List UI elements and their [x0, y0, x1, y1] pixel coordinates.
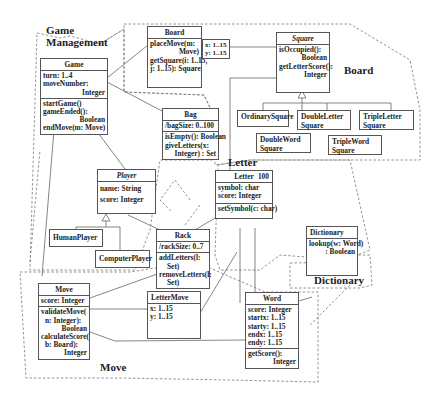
attributes: turn: 1..4 moveNumber: Integer [41, 71, 107, 99]
attribute: score: Integer [100, 194, 153, 205]
class-name: Dictionary [307, 227, 357, 239]
operations: isEmpty(): Boolean giveLetters(x: Intege… [163, 132, 218, 159]
operation-type: Integer [248, 358, 296, 366]
operations: getScore(): Integer [246, 349, 298, 367]
package-label-line: Management [46, 36, 108, 48]
class-letter[interactable]: Letter 100 symbol: char score: Integer s… [215, 170, 273, 219]
package-label-board: Board [344, 64, 373, 76]
class-name: Square [260, 145, 307, 154]
operations: validateMove( n: Integer): Boolean calcu… [39, 307, 89, 358]
class-name: Square [363, 122, 410, 131]
attributes: /bagSize: 0..100 [163, 121, 218, 132]
class-name: Game [41, 59, 107, 71]
class-human-player[interactable]: HumanPlayer [49, 229, 103, 247]
class-triple-letter-square[interactable]: TripleLetter Square [359, 110, 414, 130]
class-letter-move[interactable]: LetterMove x: 1..15 y: 1..15 [147, 291, 201, 339]
multiplicity: 100 [258, 173, 269, 181]
class-name: Square [332, 147, 378, 156]
class-triple-word-square[interactable]: TripleWord Square [328, 135, 382, 155]
operation: endMove(m: Move) [43, 124, 105, 132]
operations: setSymbol(c: char) [216, 204, 272, 214]
operation: setSymbol(c: char) [218, 205, 270, 213]
class-name: ComputerPlayer [99, 255, 146, 264]
class-square[interactable]: Square isOccupied(): Boolean getLetterSc… [276, 32, 330, 93]
attribute: endy: 1..15 [248, 339, 296, 347]
package-label-letter: Letter [228, 156, 257, 168]
class-name: Word [246, 293, 298, 305]
class-name: Bag [163, 109, 218, 121]
operations: lookup(w: Word) : Boolean [307, 239, 357, 257]
operations: isOccupied(): Boolean getLetterScore(): … [277, 45, 329, 80]
operation: j: 1..15): Square [150, 65, 199, 73]
class-name: Board [148, 27, 201, 39]
class-computer-player[interactable]: ComputerPlayer [95, 250, 150, 268]
class-name: OrdinarySquare [241, 113, 285, 122]
operation-type: Integer [41, 349, 87, 357]
class-name: Move [39, 284, 89, 296]
generalization-arrow-player [102, 214, 110, 221]
class-rack[interactable]: Rack /rackSize: 0..7 addLetters(l: Set) … [156, 229, 210, 289]
class-name-text: Letter [234, 172, 254, 181]
attribute: y: 1..15 [150, 313, 198, 321]
operation: Integer) : Set [165, 150, 216, 158]
operation: Set) [159, 279, 207, 287]
attribute: score: Integer [218, 192, 270, 200]
package-label-line: Game [46, 24, 108, 36]
class-name: Letter 100 [216, 171, 272, 183]
class-double-letter-square[interactable]: DoubleLetter Square [297, 110, 351, 130]
attribute-type: Integer [43, 89, 105, 97]
class-name: Square [301, 122, 347, 131]
operation-type: Integer [279, 71, 327, 79]
class-name: Square [277, 33, 329, 45]
class-move[interactable]: Move score: Integer validateMove( n: Int… [38, 283, 90, 360]
attributes: /rackSize: 0..7 [157, 242, 209, 253]
class-name: Rack [157, 230, 209, 242]
attribute: score: Integer [41, 297, 87, 305]
class-player[interactable]: Player name: String score: Integer [97, 169, 156, 214]
class-board[interactable]: Board placeMove(m: Move) getSquare(i: 1.… [147, 26, 202, 88]
attributes: symbol: char score: Integer [216, 183, 272, 204]
board-qualifier: x: 1..15 y: 1..15 [202, 39, 230, 59]
operations: startGame() gameEnded(): Boolean endMove… [41, 99, 107, 134]
attributes: name: String score: Integer [98, 182, 155, 206]
class-word[interactable]: Word score: Integer startx: 1..15 starty… [245, 292, 299, 369]
attribute: /bagSize: 0..100 [165, 122, 216, 130]
package-label-game-management: Game Management [46, 24, 108, 48]
operations: placeMove(m: Move) getSquare(i: 1..15, j… [148, 39, 201, 74]
attributes: x: 1..15 y: 1..15 [148, 304, 200, 322]
operations: addLetters(l: Set) removeLetters(l: Set) [157, 253, 209, 288]
package-label-move: Move [100, 361, 126, 373]
operation: : Boolean [309, 248, 355, 256]
class-name: Player [98, 170, 155, 182]
class-game[interactable]: Game turn: 1..4 moveNumber: Integer star… [40, 58, 108, 135]
attributes: score: Integer startx: 1..15 starty: 1..… [246, 305, 298, 349]
class-bag[interactable]: Bag /bagSize: 0..100 isEmpty(): Boolean … [162, 108, 219, 160]
attributes: score: Integer [39, 296, 89, 307]
qualifier: y: 1..15 [205, 49, 227, 57]
class-dictionary[interactable]: Dictionary lookup(w: Word) : Boolean [306, 226, 358, 276]
attribute: name: String [100, 183, 153, 194]
qualifier: x: 1..15 [205, 41, 227, 49]
class-name: HumanPlayer [53, 234, 99, 243]
attribute: /rackSize: 0..7 [159, 243, 207, 251]
class-ordinary-square[interactable]: OrdinarySquare [237, 110, 289, 127]
class-name: LetterMove [148, 292, 200, 304]
class-double-word-square[interactable]: DoubleWord Square [256, 133, 311, 153]
